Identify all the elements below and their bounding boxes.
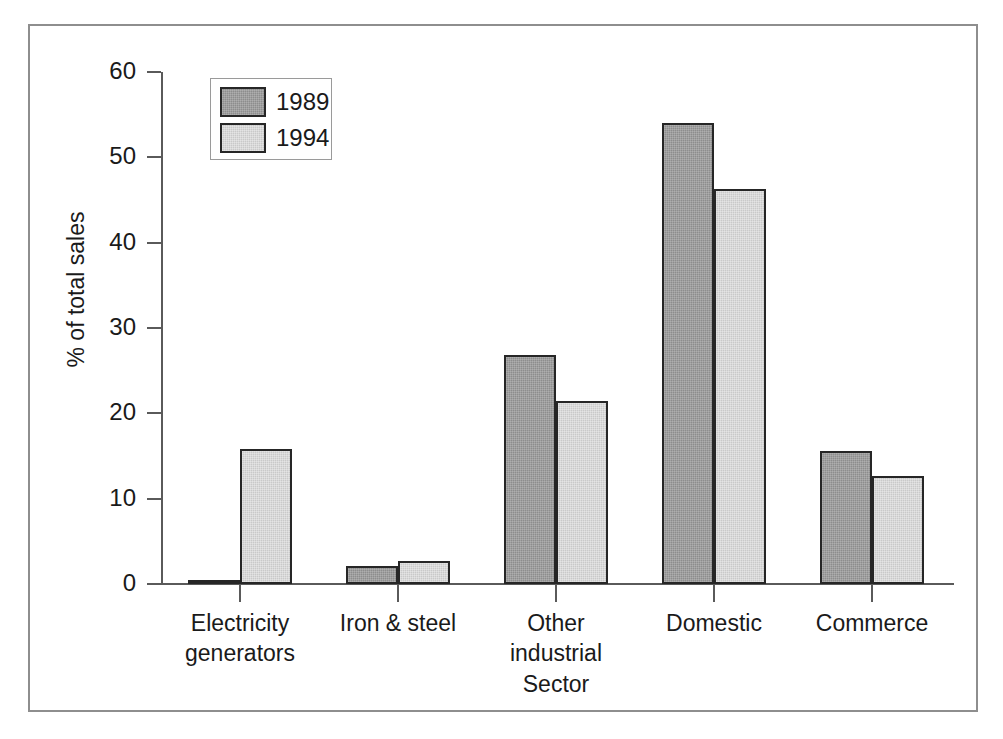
category-label-0-line-1: generators <box>140 638 340 668</box>
y-tick-60 <box>147 71 161 73</box>
x-tick-3 <box>713 585 715 602</box>
x-tick-0 <box>239 585 241 602</box>
x-tick-2 <box>555 585 557 602</box>
bar-1994-4 <box>872 476 924 584</box>
y-tick-label-wrap-20: 20 <box>74 400 136 424</box>
bar-1994-2 <box>556 401 608 584</box>
legend-label-1994: 1994 <box>276 124 329 152</box>
category-label-2-line-1: industrial <box>456 638 656 668</box>
y-tick-10 <box>147 498 161 500</box>
figure-canvas: 0102030405060 ElectricitygeneratorsIron … <box>0 0 1003 739</box>
bar-1994-3 <box>714 189 766 584</box>
y-tick-label-50: 50 <box>76 144 136 168</box>
legend-swatch-1989 <box>220 87 266 117</box>
figure-frame-border: 0102030405060 ElectricitygeneratorsIron … <box>28 24 978 712</box>
y-tick-20 <box>147 412 161 414</box>
y-tick-label-10: 10 <box>76 486 136 510</box>
legend-swatch-1994 <box>220 123 266 153</box>
legend-label-1989: 1989 <box>276 88 329 116</box>
y-tick-label-wrap-0: 0 <box>74 571 136 595</box>
y-tick-label-wrap-50: 50 <box>74 144 136 168</box>
category-label-4: Commerce <box>772 608 972 638</box>
y-tick-30 <box>147 327 161 329</box>
chart-legend: 1989 1994 <box>210 78 332 160</box>
y-tick-label-20: 20 <box>76 400 136 424</box>
x-axis-title: Sector <box>161 671 951 698</box>
bar-1994-1 <box>398 561 450 584</box>
y-tick-40 <box>147 242 161 244</box>
y-tick-label-wrap-10: 10 <box>74 486 136 510</box>
bar-1989-1 <box>346 566 398 584</box>
y-axis-title: % of total sales <box>63 180 90 400</box>
bar-1989-0 <box>188 580 240 584</box>
bar-1989-3 <box>662 123 714 584</box>
y-tick-label-0: 0 <box>76 571 136 595</box>
x-tick-4 <box>871 585 873 602</box>
y-tick-label-wrap-60: 60 <box>74 59 136 83</box>
y-tick-label-60: 60 <box>76 59 136 83</box>
bar-1994-0 <box>240 449 292 584</box>
y-tick-50 <box>147 156 161 158</box>
category-label-4-line-0: Commerce <box>772 608 972 638</box>
bar-1989-2 <box>504 355 556 584</box>
bar-1989-4 <box>820 451 872 584</box>
x-tick-1 <box>397 585 399 602</box>
y-tick-0 <box>147 583 161 585</box>
